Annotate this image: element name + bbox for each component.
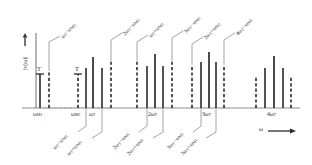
leader-wt-minus-wm2	[49, 36, 60, 70]
leader-2wt-plus-wm2	[192, 37, 203, 65]
tick-label-3wt: 3ωT	[202, 112, 211, 118]
tick-label-4wt: 4ωT	[267, 112, 276, 118]
leader-wt-plus-wm2	[137, 35, 148, 62]
x-axis-arrow-icon	[268, 128, 296, 133]
y-axis-label: |v(ω)|	[22, 57, 28, 70]
tick-label-wm1: ωM1	[33, 112, 42, 118]
leader-4wt-minus-wm2	[224, 33, 235, 65]
tick-sub-wt: T	[93, 112, 96, 117]
tick-sub-2wt: T	[154, 112, 157, 117]
tick-label-2wt: 2ωT	[148, 112, 157, 118]
tick-label-wm2: ωM2	[71, 112, 80, 118]
tick-sub-3wt: T	[208, 112, 211, 117]
tick-label-wt: ωT	[89, 112, 95, 118]
spectrum-figure: |v(ω)| ωM1 ωM2 ωT 2ωT 3ωT 4ωT ωT−ωM2 2ωT…	[0, 0, 312, 165]
leader-3wt-minus-wm2	[172, 31, 183, 62]
t-label-wm1: T	[37, 66, 41, 73]
y-axis-arrow-icon	[23, 33, 28, 46]
leader-2wt-minus-wm1	[139, 108, 147, 132]
x-axis-label: ω	[259, 126, 263, 132]
tick-sub-wm1: M1	[37, 112, 43, 117]
leader-2wt-minus-wm2	[111, 33, 122, 62]
leader-3wt-minus-wm1	[193, 108, 201, 132]
t-label-wm2: T	[75, 66, 79, 73]
leader-line-group-bottom	[78, 108, 216, 138]
spike-group	[40, 52, 291, 108]
tick-sub-4wt: T	[273, 112, 276, 117]
tick-sub-wm2: M2	[75, 112, 81, 117]
